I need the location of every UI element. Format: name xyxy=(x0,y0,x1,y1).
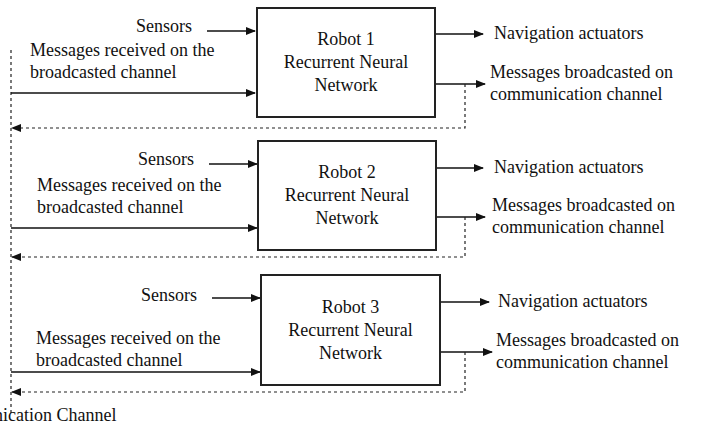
robot-1-box: Robot 1 Recurrent Neural Network xyxy=(256,7,436,118)
robot-2-broadcast-line2: communication channel xyxy=(492,216,675,238)
robot-2-messages-in-line1: Messages received on the xyxy=(37,174,221,196)
robot-1-broadcast-line2: communication channel xyxy=(490,83,673,105)
robot-3-box: Robot 3 Recurrent Neural Network xyxy=(260,274,441,386)
robot-2-title: Robot 2 xyxy=(318,161,376,184)
robot-3-title: Robot 3 xyxy=(322,296,380,319)
robot-3-navigation-label: Navigation actuators xyxy=(498,290,647,312)
robot-2-broadcast-label: Messages broadcasted on communication ch… xyxy=(492,194,675,238)
communication-channel-label: nication Channel xyxy=(0,404,116,425)
robot-3-broadcast-label: Messages broadcasted on communication ch… xyxy=(496,329,679,373)
robot-2-messages-in-line2: broadcasted channel xyxy=(37,196,221,218)
robot-2-line2: Recurrent Neural xyxy=(285,184,409,207)
robot-2-box: Robot 2 Recurrent Neural Network xyxy=(257,140,437,251)
robot-3-line2: Recurrent Neural xyxy=(288,319,412,342)
robot-1-line3: Network xyxy=(315,74,378,97)
robot-1-messages-in-line1: Messages received on the xyxy=(30,39,214,61)
robot-2-navigation-label: Navigation actuators xyxy=(494,156,643,178)
robot-2-messages-in-label: Messages received on the broadcasted cha… xyxy=(37,174,221,218)
robot-3-line3: Network xyxy=(319,342,382,365)
robot-2-sensors-label: Sensors xyxy=(138,148,194,170)
robot-3-broadcast-line1: Messages broadcasted on xyxy=(496,329,679,351)
robot-1-messages-in-line2: broadcasted channel xyxy=(30,61,214,83)
robot-3-messages-in-line1: Messages received on the xyxy=(36,327,220,349)
robot-1-broadcast-label: Messages broadcasted on communication ch… xyxy=(490,61,673,105)
robot-1-sensors-label: Sensors xyxy=(136,15,192,37)
robot-3-messages-in-line2: broadcasted channel xyxy=(36,349,220,371)
robot-1-messages-in-label: Messages received on the broadcasted cha… xyxy=(30,39,214,83)
robot-1-navigation-label: Navigation actuators xyxy=(494,22,643,44)
robot-3-sensors-label: Sensors xyxy=(141,284,197,306)
robot-1-broadcast-line1: Messages broadcasted on xyxy=(490,61,673,83)
robot-2-line3: Network xyxy=(316,207,379,230)
robot-1-line2: Recurrent Neural xyxy=(284,51,408,74)
robot-3-broadcast-line2: communication channel xyxy=(496,351,679,373)
robot-1-title: Robot 1 xyxy=(317,28,375,51)
robot-2-broadcast-line1: Messages broadcasted on xyxy=(492,194,675,216)
robot-3-messages-in-label: Messages received on the broadcasted cha… xyxy=(36,327,220,371)
